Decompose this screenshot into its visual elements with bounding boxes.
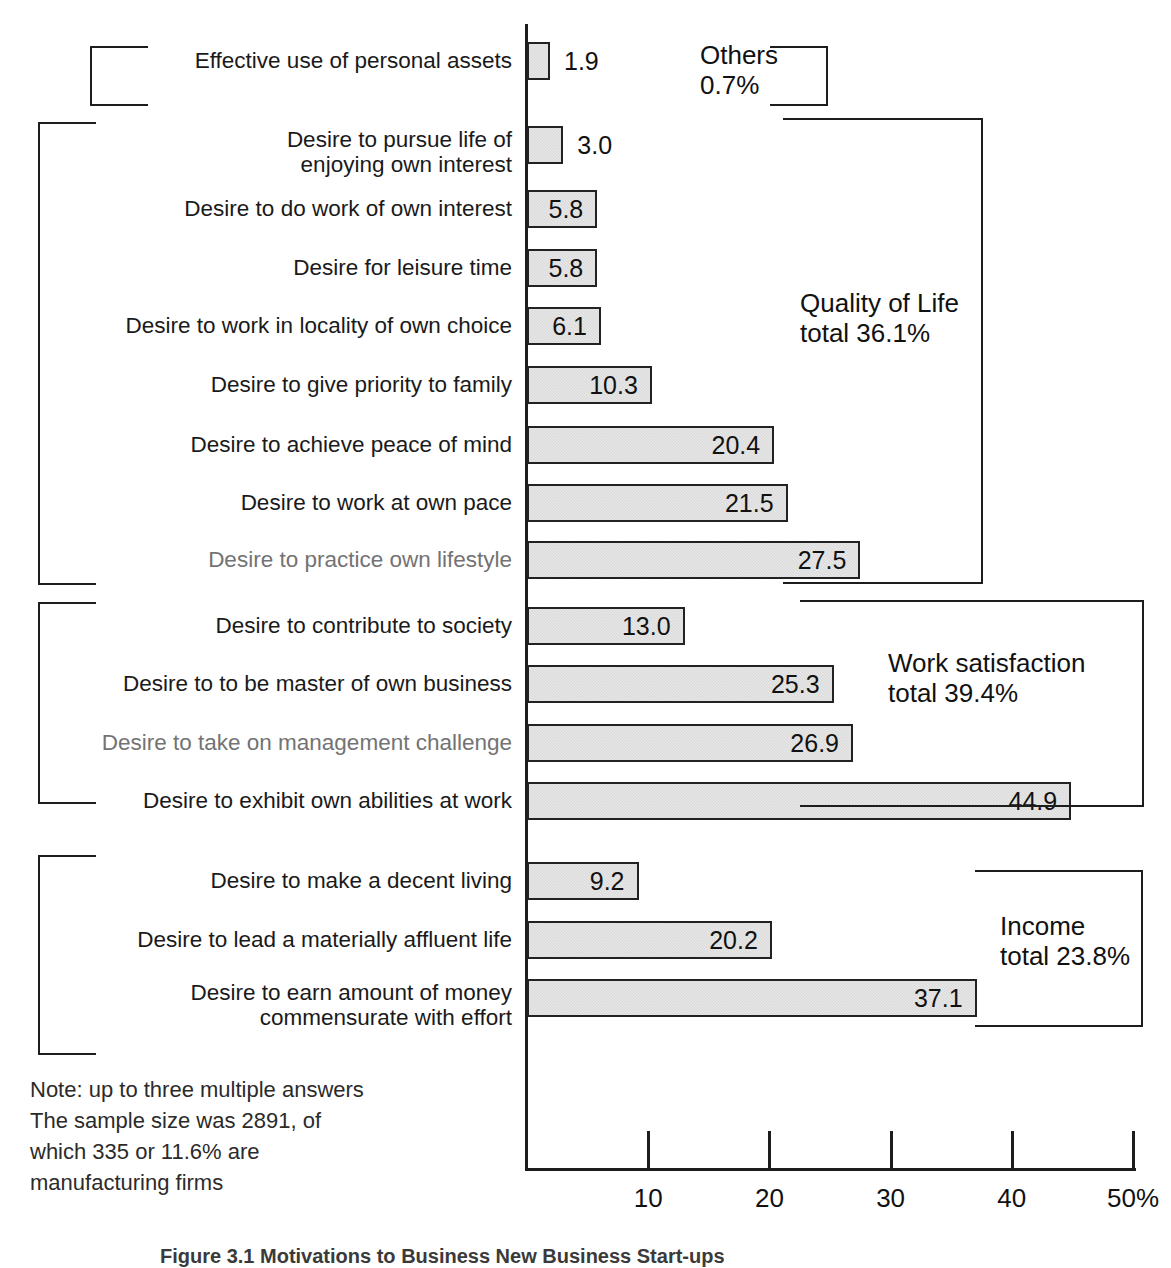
axis-tick-label: 20 <box>724 1183 814 1214</box>
bar-value-label: 5.8 <box>527 197 583 222</box>
bar-value-label: 3.0 <box>577 133 612 158</box>
group-bracket-left-work-satisfaction <box>38 602 96 804</box>
group-caption-others: Others 0.7% <box>700 40 778 100</box>
bar <box>527 126 563 164</box>
axis-tick-label: 40 <box>967 1183 1057 1214</box>
axis-tick-label: 10 <box>603 1183 693 1214</box>
group-caption-work-satisfaction: Work satisfaction total 39.4% <box>888 648 1085 708</box>
axis-tick-label: 30 <box>846 1183 936 1214</box>
axis-tick <box>1132 1131 1135 1169</box>
axis-tick <box>768 1131 771 1169</box>
bar-value-label: 9.2 <box>527 869 625 894</box>
axis-tick-label: 50% <box>1088 1183 1171 1214</box>
bar-value-label: 37.1 <box>527 986 963 1011</box>
chart-note: Note: up to three multiple answers The s… <box>30 1074 490 1198</box>
bar-value-label: 20.2 <box>527 928 758 953</box>
group-bracket-right-quality-of-life <box>783 118 983 584</box>
axis-tick <box>1011 1131 1014 1169</box>
bar-value-label: 10.3 <box>527 373 638 398</box>
axis-tick <box>647 1131 650 1169</box>
group-bracket-left-quality-of-life <box>38 122 96 585</box>
bar-value-label: 6.1 <box>527 314 587 339</box>
bar <box>527 42 550 80</box>
group-bracket-left-income <box>38 855 96 1055</box>
bar-value-label: 1.9 <box>564 49 599 74</box>
group-caption-quality-of-life: Quality of Life total 36.1% <box>800 288 959 348</box>
group-bracket-right-others <box>770 46 828 106</box>
bar-value-label: 25.3 <box>527 672 820 697</box>
axis-tick <box>890 1131 893 1169</box>
group-caption-income: Income total 23.8% <box>1000 911 1130 971</box>
bar-value-label: 26.9 <box>527 731 839 756</box>
bar-value-label: 5.8 <box>527 256 583 281</box>
bar-value-label: 20.4 <box>527 433 760 458</box>
bar-value-label: 13.0 <box>527 614 671 639</box>
bar-value-label: 21.5 <box>527 491 774 516</box>
axis-baseline <box>525 1168 1136 1171</box>
figure-caption: Figure 3.1 Motivations to Business New B… <box>160 1245 1160 1268</box>
group-bracket-left-others <box>90 46 148 106</box>
